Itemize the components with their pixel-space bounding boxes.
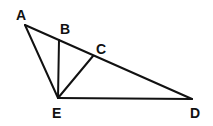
diagram-svg: A B C D E <box>0 0 213 126</box>
segment-ce <box>58 56 93 98</box>
label-d: D <box>190 105 200 121</box>
label-b: B <box>60 21 70 37</box>
segments <box>25 25 192 99</box>
segment-ae <box>25 25 58 98</box>
label-e: E <box>52 105 61 121</box>
geometry-diagram: A B C D E <box>0 0 213 126</box>
label-a: A <box>16 7 26 23</box>
label-c: C <box>96 41 106 57</box>
segment-ed <box>58 98 192 99</box>
segment-be <box>58 40 59 98</box>
segment-ad <box>25 25 192 99</box>
